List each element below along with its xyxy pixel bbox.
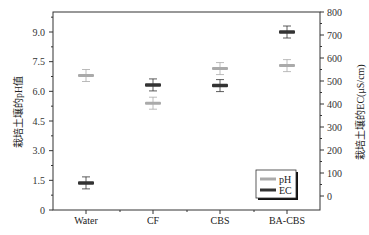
right-tick-label: 500	[327, 76, 342, 87]
right-tick-label: 200	[327, 145, 342, 156]
right-tick-label: 800	[327, 7, 342, 18]
left-tick-label: 9.0	[33, 27, 46, 38]
ph-marker	[78, 74, 94, 77]
ec-marker	[145, 83, 161, 87]
left-tick-label: 3.0	[33, 145, 46, 156]
x-category-label: CBS	[211, 215, 230, 226]
right-axis-label: 栽培土壤的EC(μS/cm)	[354, 64, 367, 159]
left-axis-label: 栽培土壤的pH值	[12, 76, 24, 148]
ph-marker	[279, 64, 295, 67]
legend-label-ec: EC	[279, 185, 292, 196]
ec-marker	[212, 84, 228, 88]
right-tick-label: 400	[327, 99, 342, 110]
x-category-label: Water	[74, 215, 98, 226]
right-tick-label: 0	[327, 191, 332, 202]
chart: 01.53.04.56.07.59.0010020030040050060070…	[0, 0, 369, 235]
left-tick-label: 4.5	[33, 116, 46, 127]
ec-marker	[279, 30, 295, 34]
right-tick-label: 600	[327, 53, 342, 64]
right-tick-label: 700	[327, 30, 342, 41]
ph-marker	[145, 102, 161, 105]
left-tick-label: 1.5	[33, 175, 46, 186]
right-tick-label: 300	[327, 122, 342, 133]
ph-marker	[212, 67, 228, 70]
x-category-label: CF	[147, 215, 160, 226]
right-tick-label: 100	[327, 168, 342, 179]
left-tick-label: 7.5	[33, 56, 46, 67]
left-tick-label: 0	[40, 205, 45, 216]
left-tick-label: 6.0	[33, 86, 46, 97]
x-category-label: BA-CBS	[269, 215, 305, 226]
legend-label-ph: pH	[279, 174, 291, 185]
ec-marker	[78, 181, 94, 185]
